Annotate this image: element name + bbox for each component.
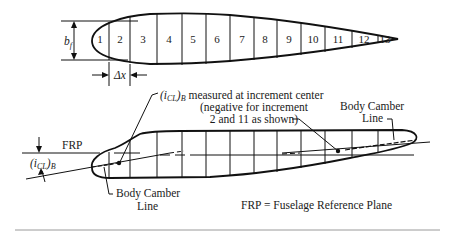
segment-label: 2: [117, 33, 123, 45]
frp-label: FRP: [62, 139, 82, 151]
increment-center-dot-11: [336, 149, 340, 153]
camber-left-label-1: Body Camber: [116, 187, 180, 200]
side-view: (iCL)B measured at increment center (neg…: [22, 89, 430, 212]
segment-label: 8: [262, 33, 268, 45]
segment-label: 13: [380, 33, 392, 45]
segment-label: 9: [286, 33, 292, 45]
segment-label: 3: [140, 33, 146, 45]
segment-label: 11: [333, 33, 344, 45]
segment-label: 5: [190, 33, 196, 45]
arrow-left-icon: [130, 72, 137, 78]
segment-label: 7: [239, 33, 245, 45]
segment-label: 6: [214, 33, 220, 45]
arrow-down-icon: [36, 146, 42, 153]
camber-right-label-2: Line: [362, 112, 383, 124]
arrow-up-icon: [71, 21, 77, 28]
icl-angle-label: (iCL)B: [30, 157, 56, 171]
segment-label: 4: [166, 33, 172, 45]
camber-left-label-2: Line: [137, 200, 158, 212]
delta-x-label: Δx: [113, 69, 127, 81]
segment-label: 12: [359, 33, 370, 45]
frp-legend: FRP = Fuselage Reference Plane: [241, 199, 392, 212]
arrow-right-icon: [102, 72, 109, 78]
segment-label: 1: [97, 33, 103, 45]
leader-right: [292, 119, 338, 151]
annotation-line-3: 2 and 11 as shown): [210, 113, 299, 126]
plan-view: 1 2 3 4 5 6 7 8 9 10 11 12 13 bf Δx: [61, 13, 398, 86]
bf-label: bf: [64, 35, 74, 50]
segment-labels: 1 2 3 4 5 6 7 8 9 10 11 12 13: [97, 33, 391, 45]
increment-center-dot-2: [117, 161, 121, 165]
segment-label: 10: [308, 33, 320, 45]
arrow-down-icon: [71, 53, 77, 60]
fuselage-camber-diagram: 1 2 3 4 5 6 7 8 9 10 11 12 13 bf Δx (iCL…: [0, 0, 453, 232]
tail-inclined-line: [282, 142, 430, 153]
